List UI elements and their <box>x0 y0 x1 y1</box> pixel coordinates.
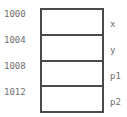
address-label-1008: 1008 <box>4 61 38 71</box>
address-label-1000: 1000 <box>4 9 38 19</box>
memory-cell <box>42 62 102 88</box>
variable-label-y: y <box>110 45 127 55</box>
address-label-1004: 1004 <box>4 35 38 45</box>
variable-label-p2: p2 <box>110 97 127 107</box>
memory-cell <box>42 87 102 111</box>
variable-label-p1: p1 <box>110 71 127 81</box>
memory-layout-diagram: 1000 1004 1008 1012 x y p1 p2 <box>0 0 127 117</box>
memory-cell <box>42 36 102 62</box>
address-label-1012: 1012 <box>4 87 38 97</box>
memory-block <box>40 8 104 113</box>
memory-cell <box>42 10 102 36</box>
variable-label-x: x <box>110 19 127 29</box>
